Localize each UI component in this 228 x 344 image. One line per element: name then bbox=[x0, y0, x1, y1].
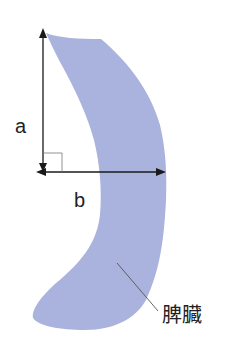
spleen-shape bbox=[33, 33, 167, 330]
label-a: a bbox=[15, 115, 27, 137]
spleen-measurement-diagram: a b 脾臓 bbox=[0, 0, 228, 344]
arrowhead-a-top-icon bbox=[39, 28, 47, 38]
arrowhead-b-left-icon bbox=[36, 168, 46, 176]
label-organ: 脾臓 bbox=[162, 303, 202, 327]
label-b: b bbox=[74, 189, 85, 211]
